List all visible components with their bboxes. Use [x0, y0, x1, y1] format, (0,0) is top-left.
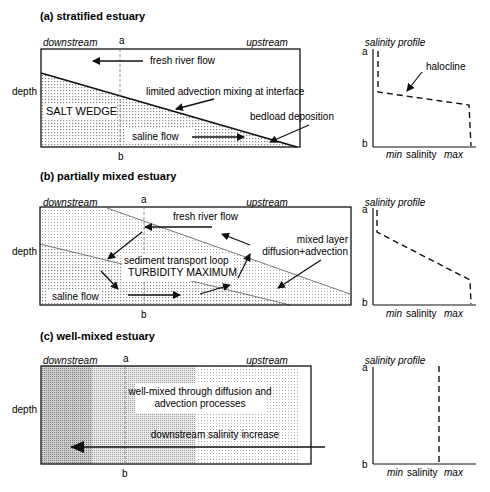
profile-title: salinity profile [365, 355, 426, 366]
turbidity-maximum-label: TURBIDITY MAXIMUM [128, 266, 237, 278]
high-salinity-zone [41, 366, 92, 464]
halocline-label: halocline [426, 61, 466, 72]
profile-b-label: b [362, 138, 368, 149]
mixed-layer-label: mixed layer [297, 234, 349, 245]
salinity-profile-b: salinity profile a b min salinity max [362, 197, 476, 319]
fresh-flow-label: fresh river flow [150, 55, 216, 66]
salinity-curve [377, 210, 471, 304]
saline-flow-label: saline flow [52, 291, 99, 302]
mid-salinity-zone [92, 366, 196, 464]
profile-b-label: b [362, 297, 368, 308]
section-b-label: b [122, 468, 128, 479]
downstream-label: downstream [43, 37, 97, 48]
x-axis-label: salinity [406, 308, 437, 319]
downstream-label: downstream [43, 355, 97, 366]
saline-flow-label: saline flow [132, 131, 179, 142]
loop-arrow-top [222, 234, 250, 245]
interface-arrow [176, 99, 214, 109]
depth-label: depth [12, 86, 37, 97]
diffusion-advection-label: diffusion+advection [262, 246, 348, 257]
profile-title: salinity profile [365, 197, 426, 208]
panel-c-well-mixed: (c) well-mixed estuary downstream a upst… [12, 330, 325, 479]
x-min-label: min [387, 467, 404, 478]
section-b-label: b [118, 151, 124, 162]
x-max-label: max [444, 308, 464, 319]
upstream-label: upstream [246, 37, 288, 48]
salinity-profile-c: salinity profile a b min salinity max [362, 355, 476, 478]
section-a-label: a [141, 194, 147, 205]
x-axis-label: salinity [406, 149, 437, 160]
depth-label: depth [12, 404, 37, 415]
interface-label: limited advection mixing at interface [146, 86, 305, 97]
profile-a-label: a [362, 362, 368, 373]
profile-a-label: a [362, 204, 368, 215]
salinity-increase-label: downstream salinity increase [151, 429, 280, 440]
profile-b-label: b [362, 459, 368, 470]
panel-a-stratified: (a) stratified estuary downstream a upst… [12, 10, 334, 162]
profile-title: salinity profile [365, 37, 426, 48]
x-min-label: min [386, 149, 403, 160]
x-min-label: min [386, 308, 403, 319]
panel-a-title: (a) stratified estuary [40, 10, 146, 22]
salt-wedge-label: SALT WEDGE [46, 105, 117, 117]
x-max-label: max [444, 149, 464, 160]
bedload-label: bedload deposition [250, 111, 334, 122]
wellmixed-label-line2: advection processes [154, 398, 245, 409]
upstream-label: upstream [246, 355, 288, 366]
profile-a-label: a [362, 46, 368, 57]
section-a-label: a [119, 35, 125, 46]
panel-c-title: (c) well-mixed estuary [40, 330, 156, 342]
bedload-arrow [270, 125, 309, 142]
salinity-profile-a: salinity profile a b halocline min salin… [362, 37, 476, 160]
fresh-flow-label: fresh river flow [173, 211, 239, 222]
section-a-label: a [123, 353, 129, 364]
depth-label: depth [12, 246, 37, 257]
sediment-loop-label: sediment transport loop [124, 255, 229, 266]
section-b-label: b [141, 309, 147, 320]
estuary-diagram: (a) stratified estuary downstream a upst… [0, 0, 490, 492]
x-axis-label: salinity [407, 467, 438, 478]
panel-b-partially-mixed: (b) partially mixed estuary downstream a… [12, 170, 351, 320]
panel-b-title: (b) partially mixed estuary [40, 170, 177, 182]
low-salinity-zone [196, 366, 299, 464]
wellmixed-label-line1: well-mixed through diffusion and [127, 386, 271, 397]
halocline-arrow [407, 72, 422, 91]
x-max-label: max [444, 467, 464, 478]
